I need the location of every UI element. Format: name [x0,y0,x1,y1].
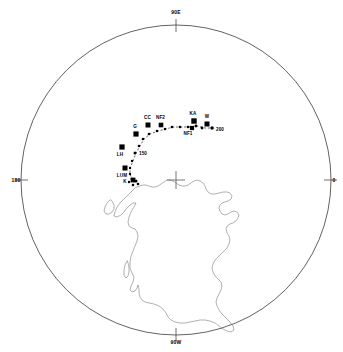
path-node-marker [164,128,167,131]
path-node-marker [129,167,131,169]
polar-projection-figure: 90E 0 90W 180 CCNF2KAWNF1GLHLUMK200150 [0,0,343,352]
pole-label-k: K [123,180,126,185]
path-node-marker [171,126,174,129]
axis-label-180: 180 [12,178,21,183]
path-node-marker [179,126,182,129]
pole-marker-g [133,131,138,136]
pole-label-lum: LUM [117,173,127,178]
pole-label-lh: LH [117,152,123,157]
path-node-marker [137,183,140,186]
path-node-marker [131,160,133,162]
age-annotation-150: 150 [139,152,147,157]
axis-label-0: 0 [333,178,336,183]
pole-label-w: W [205,115,209,120]
pole-marker-w [205,122,210,127]
path-node-marker [131,178,134,181]
pole-label-cc: CC [144,116,151,121]
pole-label-nf1: NF1 [184,132,193,137]
pole-marker-cc [146,123,151,128]
axis-label-90w: 90W [171,340,182,345]
path-node-marker [134,152,137,155]
plot-canvas [0,0,343,352]
path-node-marker [138,145,141,148]
path-node-marker [156,130,159,133]
path-node-marker [187,126,190,129]
path-node-marker [128,181,130,183]
path-node-marker [135,180,138,183]
pole-marker-nf1 [190,126,194,130]
pole-marker-ka [191,118,196,123]
axis-label-90e: 90E [171,10,181,15]
path-node-marker [142,138,145,141]
age-annotation-200: 200 [216,128,224,133]
pole-label-g: G [133,125,137,130]
path-node-marker [129,173,131,175]
path-node-marker [201,127,204,130]
path-node-marker [195,125,198,128]
pole-marker-lum [123,166,128,171]
pole-marker-nf2 [159,123,164,128]
path-node-marker [210,126,213,129]
pole-label-ka: KA [190,112,197,117]
pole-label-nf2: NF2 [156,116,165,121]
path-node-marker [132,184,135,187]
north-america-coastline [104,180,239,332]
path-node-marker [148,133,151,136]
pole-marker-lh [119,144,124,149]
